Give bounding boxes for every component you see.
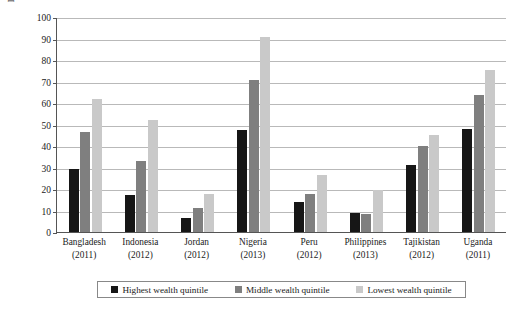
bar (406, 165, 416, 232)
bar (181, 218, 191, 232)
category-year: (2012) (184, 249, 209, 262)
bar-group (462, 18, 495, 232)
category-name: Peru (301, 237, 318, 247)
y-axis-tick-label: 90 (42, 35, 52, 45)
y-axis-tick-label: 40 (42, 142, 52, 152)
bar (485, 70, 495, 232)
bar (193, 208, 203, 232)
bar (148, 120, 158, 232)
legend-swatch-icon (235, 286, 242, 293)
y-axis-tick-mark (53, 233, 57, 234)
category-name: Tajikistan (403, 237, 440, 247)
bar (305, 194, 315, 232)
bar (418, 146, 428, 232)
bar (317, 175, 327, 232)
infant-mortality-bar-chart: Infant mortality rate (infant deaths per… (0, 0, 514, 310)
bars-layer (57, 18, 506, 232)
category-name: Philippines (344, 237, 386, 247)
bar (204, 194, 214, 232)
bar (92, 99, 102, 232)
bar (69, 169, 79, 232)
y-axis-tick-label: 80 (42, 56, 52, 66)
bar (350, 213, 360, 232)
bar (361, 214, 371, 232)
legend-item: Highest wealth quintile (111, 285, 208, 295)
legend-label: Middle wealth quintile (246, 285, 330, 295)
category-year: (2012) (403, 249, 440, 262)
bar-group (181, 18, 214, 232)
y-axis-tick-label: 10 (42, 207, 52, 217)
y-axis-tick-label: 50 (42, 121, 52, 131)
x-axis-category-labels: Bangladesh(2011)Indonesia(2012)Jordan(20… (56, 236, 506, 270)
bar-group (125, 18, 158, 232)
bar-group (350, 18, 383, 232)
bar-group (69, 18, 102, 232)
bar (125, 195, 135, 232)
x-axis-category-label: Tajikistan(2012) (403, 236, 440, 261)
bar (249, 80, 259, 232)
chart-legend: Highest wealth quintileMiddle wealth qui… (97, 281, 466, 298)
category-name: Indonesia (122, 237, 158, 247)
category-name: Uganda (463, 237, 492, 247)
x-axis-category-label: Indonesia(2012) (122, 236, 158, 261)
legend-swatch-icon (356, 286, 363, 293)
bar (462, 129, 472, 232)
y-axis-tick-label: 70 (42, 78, 52, 88)
x-axis-category-label: Uganda(2011) (463, 236, 492, 261)
category-year: (2012) (122, 249, 158, 262)
legend-label: Highest wealth quintile (122, 285, 208, 295)
bar-group (294, 18, 327, 232)
category-name: Jordan (184, 237, 209, 247)
x-axis-category-label: Peru(2012) (297, 236, 322, 261)
category-year: (2011) (62, 249, 105, 262)
legend-item: Lowest wealth quintile (356, 285, 451, 295)
bar (237, 130, 247, 232)
category-year: (2013) (344, 249, 386, 262)
legend-swatch-icon (111, 286, 118, 293)
bar (429, 135, 439, 232)
x-axis-category-label: Philippines(2013) (344, 236, 386, 261)
y-axis-title-line-1: Infant mortality rate (infant deaths (7, 0, 18, 2)
bar (136, 161, 146, 232)
bar (294, 202, 304, 232)
y-axis-title: Infant mortality rate (infant deaths per… (2, 0, 32, 40)
bar-group (406, 18, 439, 232)
legend-label: Lowest wealth quintile (367, 285, 451, 295)
x-axis-category-label: Nigeria(2013) (239, 236, 267, 261)
y-axis-tick-label: 0 (46, 228, 51, 238)
bar (474, 95, 484, 232)
category-year: (2011) (463, 249, 492, 262)
x-axis-category-label: Bangladesh(2011) (62, 236, 105, 261)
category-year: (2013) (239, 249, 267, 262)
y-axis-tick-label: 60 (42, 99, 52, 109)
category-year: (2012) (297, 249, 322, 262)
bar (260, 37, 270, 232)
y-axis-tick-label: 20 (42, 185, 52, 195)
plot-area: 0102030405060708090100 (56, 18, 506, 233)
y-axis-tick-label: 100 (37, 13, 51, 23)
x-axis-category-label: Jordan(2012) (184, 236, 209, 261)
bar (80, 132, 90, 232)
legend-item: Middle wealth quintile (235, 285, 330, 295)
category-name: Bangladesh (62, 237, 105, 247)
y-axis-tick-label: 30 (42, 164, 52, 174)
bar-group (237, 18, 270, 232)
category-name: Nigeria (239, 237, 267, 247)
bar (373, 190, 383, 232)
